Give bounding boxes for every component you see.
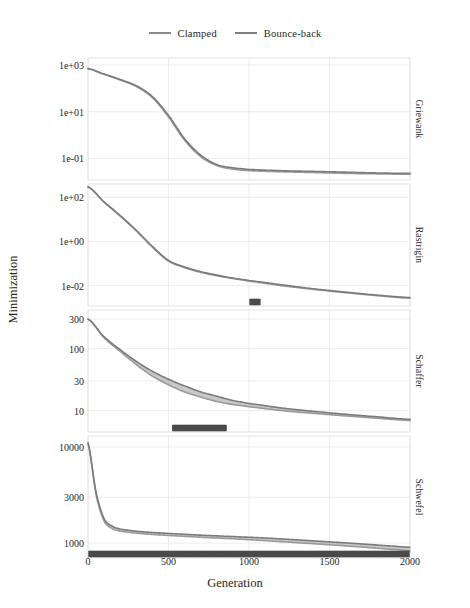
- y-axis-tick-label: 1e-02: [0, 280, 84, 291]
- facet-strip-label: Schwefel: [414, 479, 424, 516]
- panel-schwefel: [88, 436, 410, 558]
- legend-label-bounce-back: Bounce-back: [264, 28, 322, 39]
- y-axis-tick-label: 3000: [0, 492, 84, 503]
- y-axis-tick-label: 1e+02: [0, 192, 84, 203]
- y-axis-tick-label: 1e+01: [0, 106, 84, 117]
- facet-strip-schwefel: Schwefel: [410, 436, 428, 558]
- facet-plot-griewank: [88, 58, 410, 180]
- panel-schaffer: [88, 310, 410, 432]
- panel-rastrigin: [88, 184, 410, 306]
- legend-line-icon: [235, 32, 257, 34]
- x-axis-tick-label: 2000: [400, 556, 420, 567]
- x-axis-ticks: 0500100015002000: [88, 556, 410, 572]
- facet-plot-schwefel: [88, 436, 410, 558]
- legend-item-bounce-back: Bounce-back: [235, 28, 322, 39]
- facet-strip-rastrigin: Rastrigin: [410, 184, 428, 306]
- y-axis-tick-label: 1e+00: [0, 236, 84, 247]
- y-axis-tick-label: 30: [0, 375, 84, 386]
- legend-label-clamped: Clamped: [178, 28, 217, 39]
- facet-plot-schaffer: [88, 310, 410, 432]
- y-axis-tick-label: 1e-01: [0, 153, 84, 164]
- y-axis-tick-label: 10: [0, 405, 84, 416]
- y-axis-tick-label: 100: [0, 343, 84, 354]
- y-axis-tick-label: 10000: [0, 441, 84, 452]
- facet-strip-label: Schaffer: [414, 354, 424, 388]
- legend-line-icon: [149, 32, 171, 34]
- facet-strip-label: Rastrigin: [414, 227, 424, 264]
- y-axis-ticks: 1e+031e+011e-011e+021e+001e-023001003010…: [0, 0, 84, 608]
- x-axis-tick-label: 1500: [320, 556, 340, 567]
- x-axis-tick-label: 500: [161, 556, 176, 567]
- chart-root: Clamped Bounce-back Minimization 1e+031e…: [0, 0, 470, 608]
- facet-strip-label: Griewank: [414, 99, 424, 138]
- legend-item-clamped: Clamped: [149, 28, 217, 39]
- y-axis-tick-label: 1000: [0, 538, 84, 549]
- x-axis-tick-label: 0: [86, 556, 91, 567]
- panel-griewank: [88, 58, 410, 180]
- x-axis-label: Generation: [0, 576, 470, 591]
- facet-plot-rastrigin: [88, 184, 410, 306]
- x-axis-tick-label: 1000: [239, 556, 259, 567]
- facet-strip-griewank: Griewank: [410, 58, 428, 180]
- facet-strip-schaffer: Schaffer: [410, 310, 428, 432]
- y-axis-tick-label: 300: [0, 314, 84, 325]
- y-axis-tick-label: 1e+03: [0, 60, 84, 71]
